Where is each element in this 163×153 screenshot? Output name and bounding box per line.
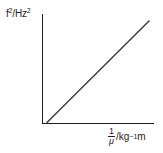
y-axis-label: f2/Hz2 bbox=[6, 8, 30, 19]
reciprocal-mu-fraction: 1 μ bbox=[108, 127, 115, 146]
data-line bbox=[46, 21, 149, 123]
x-axis-label: 1 μ /kg−1 m bbox=[108, 127, 146, 146]
